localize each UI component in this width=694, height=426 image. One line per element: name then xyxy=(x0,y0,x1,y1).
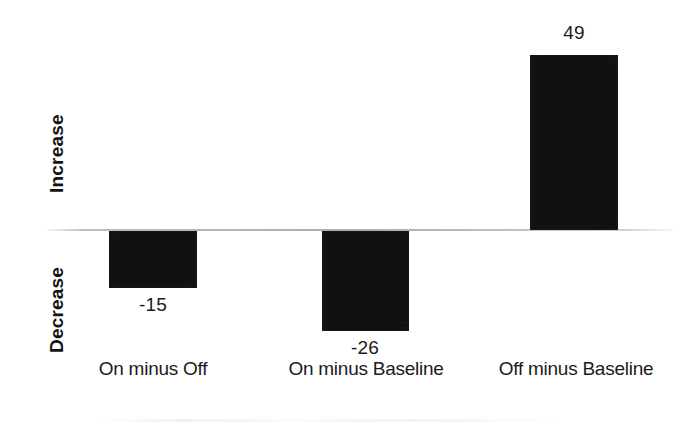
plot-area: Increase Decrease -15 -26 49 On minus Of… xyxy=(0,0,694,426)
bar-off-minus-baseline xyxy=(530,55,618,230)
axis-label-decrease: Decrease xyxy=(46,267,68,353)
value-label-off-minus-baseline: 49 xyxy=(533,22,615,44)
bar-on-minus-baseline xyxy=(322,231,409,331)
value-label-on-minus-off: -15 xyxy=(112,294,194,316)
category-label-on-minus-baseline: On minus Baseline xyxy=(265,358,467,380)
bar-chart: Increase Decrease -15 -26 49 On minus Of… xyxy=(0,0,694,426)
bar-on-minus-off xyxy=(109,231,197,288)
category-label-off-minus-baseline: Off minus Baseline xyxy=(473,358,679,380)
axis-label-increase: Increase xyxy=(46,114,68,193)
category-label-on-minus-off: On minus Off xyxy=(63,358,243,380)
value-label-on-minus-baseline: -26 xyxy=(324,337,406,359)
scan-artifact xyxy=(95,419,565,422)
